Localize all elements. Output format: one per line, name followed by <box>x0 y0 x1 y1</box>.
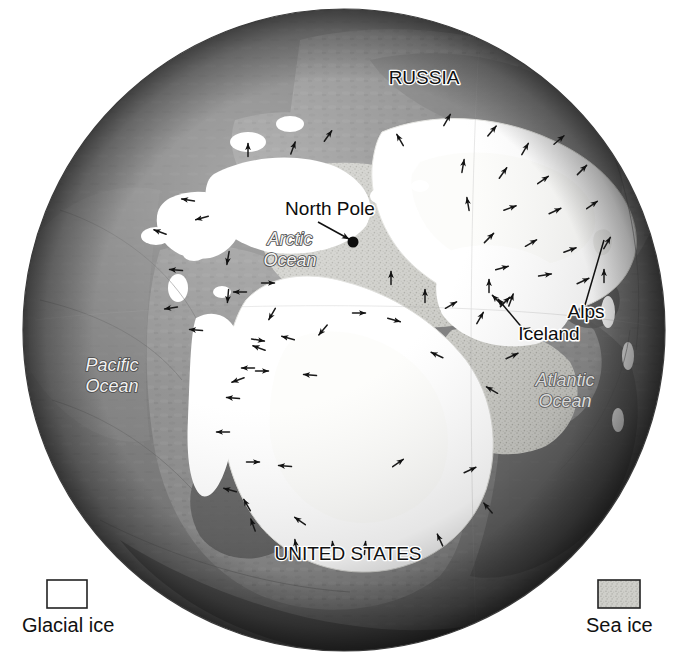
map-label-united-states: UNITED STATES <box>274 543 421 564</box>
map-label-line: Arctic <box>267 229 313 249</box>
figure-canvas: RUSSIAUNITED STATESNorth PoleAlpsIceland… <box>0 0 687 658</box>
legend-swatch-sea-ice <box>598 580 640 608</box>
map-label-arctic-ocean: ArcticOcean <box>263 229 316 270</box>
legend-swatch-glacial-ice <box>47 580 87 608</box>
map-label-line: Pacific <box>85 355 138 375</box>
map-label-alps: Alps <box>568 301 605 322</box>
map-label-atlantic-ocean: AtlanticOcean <box>534 370 594 411</box>
map-label-north-pole: North Pole <box>285 198 375 219</box>
legend-label-sea-ice: Sea ice <box>586 614 653 636</box>
map-label-line: Ocean <box>85 376 138 396</box>
map-label-line: Atlantic <box>534 370 594 390</box>
map-label-iceland: Iceland <box>518 323 579 344</box>
map-label-line: Ocean <box>538 391 591 411</box>
legend-label-glacial-ice: Glacial ice <box>22 614 114 636</box>
map-label-pacific-ocean: PacificOcean <box>85 355 138 396</box>
north-pole-marker <box>348 237 359 248</box>
ice-age-globe-figure: RUSSIAUNITED STATESNorth PoleAlpsIceland… <box>0 0 687 658</box>
map-label-line: Ocean <box>263 250 316 270</box>
map-label-russia: RUSSIA <box>389 67 460 88</box>
